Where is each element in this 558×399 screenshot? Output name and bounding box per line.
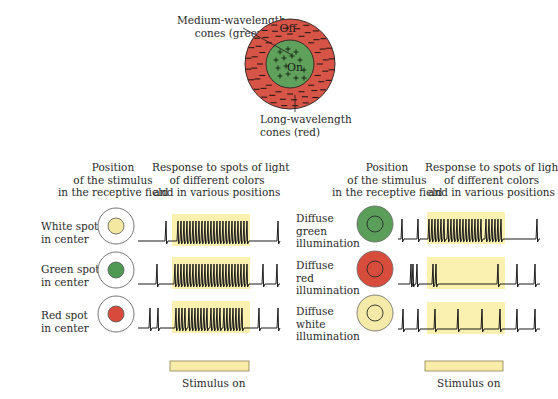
- stimulus-on-bar: [425, 361, 503, 371]
- stimulus-spot: [108, 218, 124, 234]
- left-stimulus-label: Stimulus on: [182, 377, 245, 390]
- diffuse-field: [357, 251, 393, 287]
- right-stimulus-label: Stimulus on: [437, 377, 500, 390]
- diffuse-field: [357, 206, 393, 242]
- diffuse-field: [357, 295, 393, 331]
- stimulus-on-bar: [170, 361, 249, 371]
- response-traces: [0, 0, 558, 399]
- stimulus-spot: [108, 306, 124, 322]
- stimulus-spot: [108, 262, 124, 278]
